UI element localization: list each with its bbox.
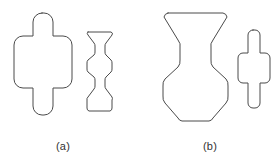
shape-rounded-rect-with-caps-large xyxy=(14,13,72,115)
shape-rounded-rect-with-caps-small xyxy=(238,30,270,108)
panel-caption-a: (a) xyxy=(56,140,70,152)
panel-caption-b: (b) xyxy=(203,140,217,152)
shape-wavy-spool-small xyxy=(87,32,112,111)
figure-container: (a) (b) xyxy=(0,0,280,166)
shapes-canvas xyxy=(0,0,280,166)
shape-wavy-spool-large xyxy=(163,13,228,121)
panel-b-shapes xyxy=(163,13,270,121)
panel-a-shapes xyxy=(14,13,112,115)
